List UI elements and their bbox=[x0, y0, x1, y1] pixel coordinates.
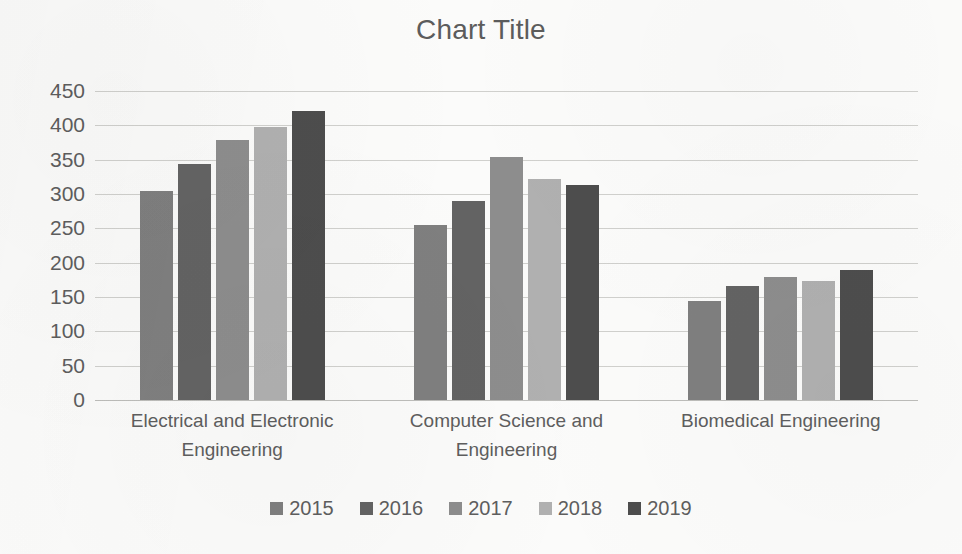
legend-item-2019[interactable]: 2019 bbox=[628, 497, 692, 520]
x-axis: Electrical and Electronic EngineeringCom… bbox=[95, 406, 918, 476]
chart-legend: 20152016201720182019 bbox=[0, 497, 962, 520]
bar-2017-1 bbox=[216, 140, 249, 400]
y-axis-tick-label: 300 bbox=[50, 182, 85, 206]
legend-item-2017[interactable]: 2017 bbox=[449, 497, 513, 520]
bar-2018-2 bbox=[528, 179, 561, 400]
y-axis-tick-label: 250 bbox=[50, 216, 85, 240]
legend-item-2015[interactable]: 2015 bbox=[270, 497, 334, 520]
bar-2017-3 bbox=[764, 277, 797, 400]
legend-label: 2019 bbox=[647, 497, 692, 520]
chart-title: Chart Title bbox=[0, 14, 962, 46]
x-axis-category-label: Electrical and Electronic Engineering bbox=[95, 406, 369, 464]
legend-label: 2016 bbox=[379, 497, 424, 520]
legend-item-2016[interactable]: 2016 bbox=[360, 497, 424, 520]
bars-layer bbox=[95, 91, 918, 400]
legend-swatch-icon bbox=[539, 502, 552, 515]
legend-label: 2018 bbox=[558, 497, 603, 520]
chart-container: Chart Title 450400350300250200150100500 … bbox=[0, 0, 962, 554]
bar-2018-3 bbox=[802, 281, 835, 400]
y-axis-tick-label: 0 bbox=[73, 388, 85, 412]
bar-2016-2 bbox=[452, 201, 485, 400]
bar-2019-3 bbox=[840, 270, 873, 400]
x-axis-category-label: Computer Science and Engineering bbox=[369, 406, 643, 464]
bar-2016-1 bbox=[178, 164, 211, 400]
legend-label: 2017 bbox=[468, 497, 513, 520]
y-axis: 450400350300250200150100500 bbox=[30, 91, 85, 400]
legend-label: 2015 bbox=[289, 497, 334, 520]
y-axis-tick-label: 50 bbox=[62, 354, 85, 378]
legend-swatch-icon bbox=[270, 502, 283, 515]
bar-2019-1 bbox=[292, 111, 325, 400]
bar-2017-2 bbox=[490, 157, 523, 400]
y-axis-tick-label: 350 bbox=[50, 148, 85, 172]
y-axis-tick-label: 100 bbox=[50, 319, 85, 343]
legend-item-2018[interactable]: 2018 bbox=[539, 497, 603, 520]
x-axis-category-label: Biomedical Engineering bbox=[644, 406, 918, 435]
gridline bbox=[95, 400, 918, 401]
y-axis-tick-label: 150 bbox=[50, 285, 85, 309]
bar-2018-1 bbox=[254, 127, 287, 400]
legend-swatch-icon bbox=[628, 502, 641, 515]
y-axis-tick-label: 200 bbox=[50, 251, 85, 275]
bar-2016-3 bbox=[726, 286, 759, 400]
bar-2015-2 bbox=[414, 225, 447, 400]
y-axis-tick-label: 450 bbox=[50, 79, 85, 103]
bar-2015-1 bbox=[140, 191, 173, 400]
y-axis-tick-label: 400 bbox=[50, 113, 85, 137]
legend-swatch-icon bbox=[360, 502, 373, 515]
legend-swatch-icon bbox=[449, 502, 462, 515]
bar-2019-2 bbox=[566, 185, 599, 400]
bar-2015-3 bbox=[688, 301, 721, 400]
